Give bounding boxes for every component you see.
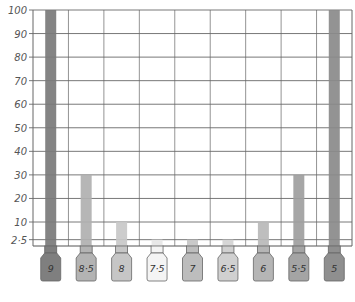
bottle-1: 8·5	[76, 246, 96, 281]
x-tick-label: 7	[189, 263, 195, 274]
bottle-neck	[45, 246, 57, 253]
bar-1	[81, 175, 92, 246]
y-tick-label: 30	[14, 170, 27, 181]
bottle-5: 6·5	[218, 246, 238, 281]
x-tick-label: 8	[119, 263, 125, 274]
y-tick-label: 40	[14, 146, 27, 157]
x-tick-label: 8·5	[79, 263, 94, 274]
bar-0	[45, 10, 56, 246]
bar-4	[187, 240, 198, 246]
bar-8	[329, 10, 340, 246]
x-tick-label: 5·5	[291, 263, 306, 274]
x-tick-label: 6·5	[220, 263, 235, 274]
chart-canvas: 2·510203040506070809010098·587·576·565·5…	[0, 0, 355, 302]
bottle-neck	[187, 246, 199, 253]
bottle-8: 5	[324, 246, 344, 281]
bottle-0: 9	[41, 246, 61, 281]
y-tick-label: 50	[14, 123, 27, 134]
bar-5	[222, 240, 233, 246]
x-tick-label: 6	[260, 263, 266, 274]
bar-7	[293, 175, 304, 246]
x-axis-bottles: 98·587·576·565·55	[41, 246, 345, 281]
bottle-neck	[293, 246, 305, 253]
bar-6	[258, 222, 269, 246]
x-tick-label: 9	[48, 263, 54, 274]
bottle-3: 7·5	[147, 246, 167, 281]
bottle-neck	[151, 246, 163, 253]
y-tick-label: 90	[14, 29, 27, 40]
bottle-neck	[222, 246, 234, 253]
bottle-4: 7	[183, 246, 203, 281]
bar-chart: 2·510203040506070809010098·587·576·565·5…	[0, 0, 355, 302]
y-tick-label: 60	[14, 99, 27, 110]
x-tick-label: 5	[331, 263, 337, 274]
y-tick-label: 100	[8, 5, 27, 16]
bottle-neck	[257, 246, 269, 253]
bottle-neck	[80, 246, 92, 253]
y-tick-label: 80	[14, 52, 27, 63]
bar-2	[116, 222, 127, 246]
bar-3	[152, 240, 163, 246]
bottle-2: 8	[112, 246, 132, 281]
bottle-neck	[328, 246, 340, 253]
y-tick-label: 20	[14, 193, 27, 204]
y-tick-label: 2·5	[11, 235, 27, 246]
bottle-6: 6	[253, 246, 273, 281]
y-tick-label: 70	[14, 76, 27, 87]
y-tick-label: 10	[14, 217, 27, 228]
bottle-neck	[116, 246, 128, 253]
bottle-7: 5·5	[289, 246, 309, 281]
x-tick-label: 7·5	[150, 263, 165, 274]
